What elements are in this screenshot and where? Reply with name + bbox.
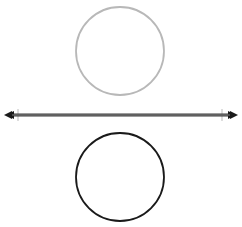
bottom-circle bbox=[76, 133, 164, 221]
diagram-canvas bbox=[0, 0, 242, 227]
arrow-right-icon bbox=[230, 111, 238, 119]
arrow-left-icon bbox=[4, 111, 12, 119]
top-circle bbox=[76, 7, 164, 95]
diagram-svg bbox=[0, 0, 242, 227]
horizontal-double-arrow-line bbox=[4, 109, 238, 121]
